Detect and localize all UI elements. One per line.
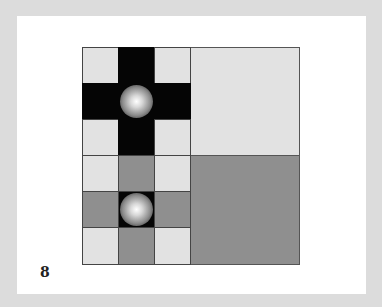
grid-cell: [82, 227, 119, 265]
grid-cell: [154, 227, 191, 265]
illusion-figure: [82, 47, 300, 265]
grid-cell: [154, 155, 191, 192]
grid-cell: [154, 83, 191, 120]
grid-cell: [118, 155, 155, 192]
grid-cell: [118, 119, 155, 156]
page-number: 8: [40, 264, 50, 280]
grid-cell: [82, 83, 119, 120]
grid-cell: [82, 47, 119, 84]
grid-cell: [82, 119, 119, 156]
grid-cell: [154, 47, 191, 84]
bottom-right-gray-square: [190, 155, 300, 265]
grid-cell: [154, 119, 191, 156]
sphere-bottom: [120, 193, 153, 226]
top-right-light-square: [190, 47, 300, 156]
grid-cell: [118, 227, 155, 265]
grid-cell: [82, 191, 119, 228]
grid-cell: [118, 47, 155, 84]
grid-cell: [82, 155, 119, 192]
grid-cell: [154, 191, 191, 228]
sphere-top: [120, 85, 153, 118]
